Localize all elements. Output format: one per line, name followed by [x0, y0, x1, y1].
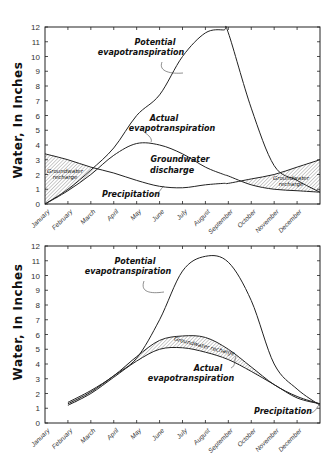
top-pet-leader — [161, 62, 183, 73]
top-aet-label-2: evapotranspiration — [129, 124, 216, 133]
bottom-y-tick-label: 2 — [36, 390, 41, 399]
bottom-month-label: March — [79, 426, 97, 444]
bottom-y-tick-label: 3 — [36, 375, 41, 384]
top-y-tick-label: 4 — [36, 141, 41, 150]
top-y-tick-label: 9 — [36, 67, 41, 76]
water-budget-chart: 0123456789101112 JanuaryFebruaryMarchApr… — [0, 0, 336, 463]
bottom-month-label: June — [150, 426, 166, 442]
top-month-label: May — [129, 207, 144, 222]
top-y-tick-label: 6 — [36, 112, 41, 121]
bottom-month-label: February — [50, 426, 75, 451]
top-pet-label-2: evapotranspiration — [98, 48, 185, 57]
top-y-tick-label: 12 — [31, 23, 40, 32]
top-y-tick-label: 3 — [36, 156, 41, 165]
top-month-label: March — [79, 207, 97, 225]
top-y-tick-label: 0 — [36, 200, 41, 209]
bottom-y-tick-label: 10 — [31, 272, 40, 281]
bottom-month-label: October — [236, 426, 258, 448]
bottom-y-tick-label: 5 — [36, 345, 41, 354]
bottom-y-axis-label: Water, In Inches — [11, 264, 25, 381]
top-gwr-early-label-2: recharge — [53, 174, 78, 181]
top-aet-label-1: Actual — [149, 114, 179, 123]
top-y-axis-label: Water, In Inches — [11, 62, 25, 179]
bottom-month-label: December — [277, 426, 304, 453]
bottom-pet-label-1: Potential — [114, 257, 155, 266]
top-chart-panel: 0123456789101112 JanuaryFebruaryMarchApr… — [11, 23, 320, 236]
bottom-y-tick-label: 0 — [36, 419, 41, 428]
top-month-label: February — [50, 207, 75, 232]
bottom-pet-leader — [143, 281, 164, 293]
top-month-label: September — [207, 207, 236, 236]
top-y-tick-label: 10 — [31, 53, 40, 62]
bottom-month-label: July — [174, 426, 189, 441]
top-y-tick-label: 1 — [36, 185, 41, 194]
top-y-tick-label: 2 — [36, 171, 41, 180]
bottom-y-tick-label: 11 — [32, 257, 41, 266]
bottom-pet-label-2: evapotranspiration — [85, 267, 172, 276]
bottom-month-label: September — [207, 426, 236, 455]
bottom-aet-label-1: Actual — [193, 364, 223, 373]
top-gwd-label-2: discharge — [150, 166, 195, 175]
top-gwd-label-1: Groundwater — [150, 155, 210, 164]
bottom-month-label: May — [129, 426, 144, 441]
top-gwr-late-label-2: recharge — [279, 181, 304, 188]
top-y-tick-label: 8 — [36, 82, 41, 91]
top-month-label: October — [236, 207, 258, 229]
bottom-precip-label: Precipitation — [254, 407, 312, 416]
top-month-label: April — [105, 207, 121, 223]
bottom-month-label: April — [105, 426, 121, 442]
top-month-label: January — [29, 207, 52, 230]
bottom-month-label: August — [191, 426, 213, 448]
bottom-y-tick-label: 12 — [31, 242, 40, 251]
bottom-month-label: January — [29, 426, 52, 449]
bottom-groundwater-recharge-area — [68, 336, 272, 406]
bottom-y-tick-label: 9 — [36, 286, 41, 295]
bottom-chart-panel: 0123456789101112 JanuaryFebruaryMarchApr… — [11, 242, 320, 455]
bottom-y-tick-label: 7 — [36, 316, 41, 325]
top-month-label: December — [277, 207, 304, 234]
top-precip-label: Precipitation — [102, 190, 160, 199]
top-month-label: June — [150, 207, 166, 223]
bottom-y-tick-label: 6 — [36, 331, 41, 340]
bottom-y-tick-label: 1 — [36, 404, 41, 413]
top-y-tick-label: 11 — [32, 38, 41, 47]
top-month-label: July — [174, 207, 189, 222]
top-y-tick-label: 5 — [36, 126, 41, 135]
bottom-aet-label-2: evapotranspiration — [148, 374, 235, 383]
bottom-y-tick-label: 8 — [36, 301, 41, 310]
bottom-y-tick-label: 4 — [36, 360, 41, 369]
top-month-label: August — [191, 207, 213, 229]
top-pet-label-1: Potential — [134, 38, 175, 47]
top-y-tick-label: 7 — [36, 97, 41, 106]
